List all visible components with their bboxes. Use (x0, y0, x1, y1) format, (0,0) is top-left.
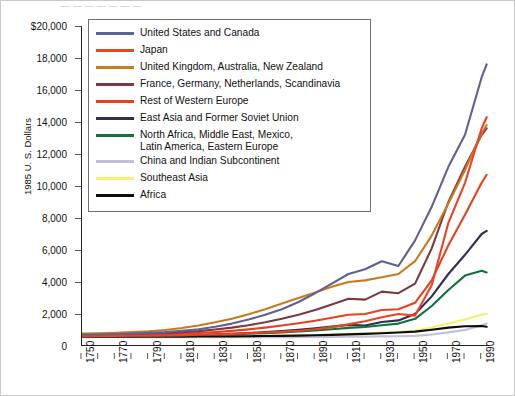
series-line (82, 231, 487, 337)
legend-label: North Africa, Middle East, Mexico, Latin… (140, 128, 293, 152)
cropped-title-remnant: — — — — — — — (61, 1, 311, 10)
legend-item[interactable]: China and Indian Subcontinent (96, 154, 362, 169)
legend-item[interactable]: North Africa, Middle East, Mexico, Latin… (96, 128, 362, 152)
y-tick-label: 10,000 (36, 181, 67, 192)
legend-color-swatch (96, 177, 134, 180)
legend-color-swatch (96, 160, 134, 163)
y-tick-label: 18,000 (36, 53, 67, 64)
legend-swatch-wrap (96, 43, 140, 58)
y-tick-label: 14,000 (36, 117, 67, 128)
legend-label: Southeast Asia (140, 171, 208, 184)
legend-color-swatch (96, 83, 134, 86)
legend-label: United Kingdom, Australia, New Zealand (140, 60, 323, 73)
y-tick-label: 4,000 (42, 277, 67, 288)
legend: United States and CanadaJapanUnited King… (88, 19, 371, 212)
legend-item[interactable]: Southeast Asia (96, 171, 362, 186)
y-tick-label: 6,000 (42, 245, 67, 256)
legend-label: United States and Canada (140, 26, 260, 39)
x-axis-ticks: 1750177017901810183018501870189019101930… (1, 353, 515, 396)
y-tick-label: 12,000 (36, 149, 67, 160)
legend-swatch-wrap (96, 26, 140, 41)
legend-label: China and Indian Subcontinent (140, 154, 279, 167)
y-tick-label: 0 (61, 341, 67, 352)
x-axis-tickmarks (1, 353, 515, 363)
legend-swatch-wrap (96, 154, 140, 169)
legend-swatch-wrap (96, 60, 140, 75)
y-tick-label: $20,000 (31, 21, 67, 32)
y-tick-label: 2,000 (42, 309, 67, 320)
legend-color-swatch (96, 194, 134, 197)
legend-item[interactable]: Japan (96, 43, 362, 58)
legend-swatch-wrap (96, 128, 140, 143)
legend-color-swatch (96, 134, 134, 137)
legend-label: East Asia and Former Soviet Union (140, 111, 299, 124)
chart-figure: — — — — — — — 1985 U. S. Dollars $20,000… (0, 0, 515, 396)
legend-item[interactable]: United States and Canada (96, 26, 362, 41)
legend-item[interactable]: East Asia and Former Soviet Union (96, 111, 362, 126)
legend-item[interactable]: France, Germany, Netherlands, Scandinavi… (96, 77, 362, 92)
y-tick-label: 8,000 (42, 213, 67, 224)
y-tick-label: 16,000 (36, 85, 67, 96)
legend-swatch-wrap (96, 111, 140, 126)
legend-color-swatch (96, 32, 134, 35)
legend-label: Rest of Western Europe (140, 94, 249, 107)
legend-swatch-wrap (96, 94, 140, 109)
legend-swatch-wrap (96, 77, 140, 92)
legend-label: Japan (140, 43, 168, 56)
legend-color-swatch (96, 117, 134, 120)
legend-label: France, Germany, Netherlands, Scandinavi… (140, 77, 340, 90)
legend-item[interactable]: Africa (96, 188, 362, 203)
legend-swatch-wrap (96, 171, 140, 186)
legend-label: Africa (140, 188, 166, 201)
y-axis-ticks: $20,00018,00016,00014,00012,00010,0008,0… (1, 1, 77, 396)
legend-item[interactable]: United Kingdom, Australia, New Zealand (96, 60, 362, 75)
legend-item[interactable]: Rest of Western Europe (96, 94, 362, 109)
legend-color-swatch (96, 66, 134, 69)
legend-color-swatch (96, 49, 134, 52)
legend-color-swatch (96, 100, 134, 103)
legend-swatch-wrap (96, 188, 140, 203)
